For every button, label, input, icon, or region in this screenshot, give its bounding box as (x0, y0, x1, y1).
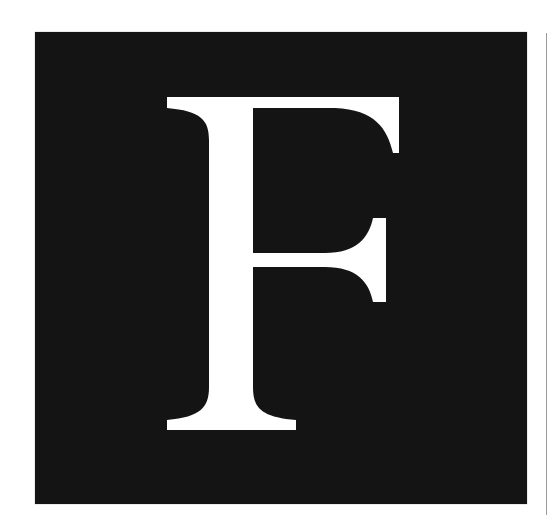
letter-f-icon (35, 32, 527, 504)
logo-square: F (35, 32, 527, 504)
vertical-divider (546, 33, 547, 515)
